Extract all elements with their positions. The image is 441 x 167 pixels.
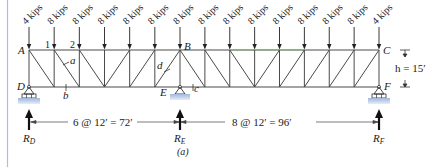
load-label: 4 kips: [370, 1, 395, 26]
load-1: 4 kips: [20, 1, 45, 49]
member-label-c: c: [194, 82, 199, 94]
truss-diagram: 4 kips8 kips8 kips8 kips8 kips8 kips8 ki…: [0, 0, 441, 167]
load-label: 8 kips: [295, 1, 320, 26]
load-arrow-icon: [302, 44, 306, 50]
diagonal-member: [230, 50, 255, 87]
diagonal-member: [105, 50, 130, 87]
diagonal-member: [329, 50, 354, 87]
load-arrow-icon: [127, 44, 131, 50]
height-label: h = 15′: [395, 62, 426, 74]
load-arrow-icon: [52, 44, 56, 50]
figure-caption: (a): [177, 146, 189, 158]
load-label: 8 kips: [270, 1, 295, 26]
load-arrow-icon: [102, 44, 106, 50]
diagonal-member: [354, 50, 379, 87]
member-label-a: a: [70, 54, 76, 66]
diagonal-member: [304, 50, 329, 87]
left-span-label: 6 @ 12′ = 72′: [73, 116, 133, 128]
load-11: 8 kips: [270, 1, 295, 49]
load-arrows: 4 kips8 kips8 kips8 kips8 kips8 kips8 ki…: [20, 1, 395, 49]
load-label: 8 kips: [196, 1, 221, 26]
node-label-F: F: [383, 80, 391, 92]
load-label: 8 kips: [120, 1, 145, 26]
diagonal-member: [280, 50, 305, 87]
load-label: 8 kips: [95, 1, 120, 26]
reaction-label-RD: RD: [22, 132, 36, 146]
load-label: 8 kips: [145, 1, 170, 26]
load-label: 8 kips: [171, 1, 196, 26]
node-label-1: 1: [45, 39, 50, 50]
diagonal-member: [205, 50, 230, 87]
node-label-A: A: [17, 44, 25, 56]
diagonal-member: [29, 50, 54, 87]
load-arrow-icon: [327, 44, 331, 50]
reaction-label-RE: RE: [173, 132, 186, 146]
reaction-arrow-RE: [176, 109, 184, 130]
load-14: 8 kips: [345, 1, 370, 49]
load-arrow-icon: [77, 44, 81, 50]
load-15: 4 kips: [370, 1, 395, 49]
member-label-b: b: [63, 89, 69, 101]
load-arrow-icon: [277, 44, 281, 50]
load-label: 8 kips: [245, 1, 270, 26]
node-label-2: 2: [70, 39, 75, 50]
right-span-label: 8 @ 12′ = 96′: [232, 116, 292, 128]
load-arrow-icon: [153, 44, 157, 50]
load-label: 8 kips: [70, 1, 95, 26]
node-label-B: B: [184, 40, 191, 52]
load-label: 8 kips: [345, 1, 370, 26]
load-10: 8 kips: [245, 1, 270, 49]
load-arrow-icon: [203, 44, 207, 50]
reaction-arrow-RD: [25, 109, 33, 130]
load-12: 8 kips: [295, 1, 320, 49]
node-label-E: E: [159, 86, 167, 98]
member-label-d: d: [157, 59, 163, 71]
diagonal-member: [130, 50, 155, 87]
load-arrow-icon: [178, 44, 182, 50]
diagonal-member: [79, 50, 104, 87]
diagonal-member: [180, 50, 205, 87]
load-4: 8 kips: [95, 1, 120, 49]
load-5: 8 kips: [120, 1, 145, 49]
load-arrow-icon: [252, 44, 256, 50]
load-13: 8 kips: [320, 1, 345, 49]
load-label: 8 kips: [45, 1, 70, 26]
load-label: 4 kips: [20, 1, 45, 26]
load-arrow-icon: [377, 44, 381, 50]
diagonal-member: [255, 50, 280, 87]
load-8: 8 kips: [196, 1, 221, 49]
load-arrow-icon: [352, 44, 356, 50]
load-arrow-icon: [228, 44, 232, 50]
node-label-D: D: [16, 80, 25, 92]
reaction-label-RF: RF: [372, 132, 385, 146]
reaction-arrow-RF: [375, 109, 383, 130]
load-9: 8 kips: [220, 1, 245, 49]
diagonal-member: [54, 50, 79, 87]
truss: [27, 50, 380, 89]
node-label-C: C: [383, 44, 391, 56]
load-label: 8 kips: [320, 1, 345, 26]
load-label: 8 kips: [220, 1, 245, 26]
load-6: 8 kips: [145, 1, 170, 49]
load-arrow-icon: [27, 44, 31, 50]
